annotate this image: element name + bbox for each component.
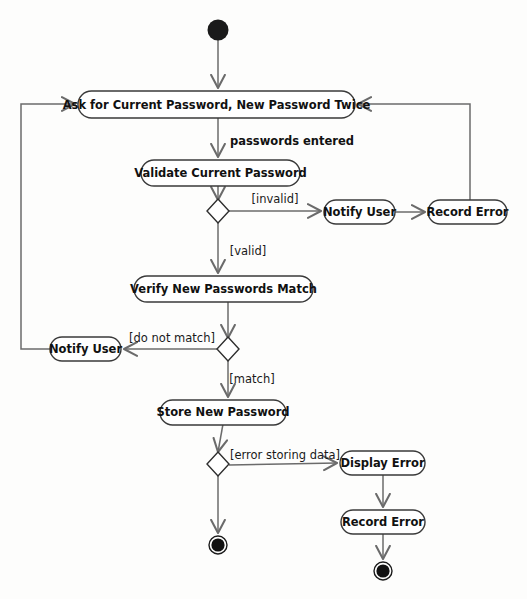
action-record-error-invalid-label: Record Error (426, 205, 508, 219)
action-record-error-store-label: Record Error (342, 515, 424, 529)
action-record-error-store[interactable]: Record Error (341, 510, 425, 534)
action-validate-current-password[interactable]: Validate Current Password (134, 160, 307, 186)
edge-label-invalid: [invalid] (252, 192, 299, 206)
edge-record-error-to-ask-loop (358, 104, 470, 200)
action-ask-for-passwords-label: Ask for Current Password, New Password T… (63, 98, 371, 112)
action-validate-current-password-label: Validate Current Password (134, 166, 307, 180)
diagram-surface: Ask for Current Password, New Password T… (0, 0, 527, 599)
decision-node-password-valid[interactable] (207, 199, 229, 223)
action-verify-new-passwords-match-label: Verify New Passwords Match (130, 282, 317, 296)
action-notify-user-invalid[interactable]: Notify User (323, 200, 396, 224)
action-notify-user-invalid-label: Notify User (323, 205, 396, 219)
edge-store-to-decision3 (218, 424, 223, 452)
edge-decision3-to-display-error (229, 463, 337, 465)
action-display-error-label: Display Error (340, 456, 425, 470)
edge-notify-user-2-to-ask-loop (21, 104, 75, 349)
action-verify-new-passwords-match[interactable]: Verify New Passwords Match (130, 276, 317, 302)
final-node-success[interactable] (209, 536, 227, 554)
initial-node[interactable] (208, 20, 229, 41)
edge-label-error-storing-data: [error storing data] (230, 448, 340, 462)
activity-diagram-canvas: Ask for Current Password, New Password T… (0, 0, 527, 599)
edge-label-valid: [valid] (230, 244, 267, 258)
final-node-error[interactable] (374, 562, 392, 580)
action-record-error-invalid[interactable]: Record Error (426, 200, 508, 224)
action-ask-for-passwords[interactable]: Ask for Current Password, New Password T… (63, 91, 371, 118)
edge-label-passwords-entered: passwords entered (230, 134, 354, 148)
edge-label-match: [match] (229, 372, 274, 386)
action-store-new-password-label: Store New Password (156, 405, 289, 419)
action-display-error[interactable]: Display Error (340, 451, 425, 475)
decision-node-passwords-match[interactable] (217, 337, 239, 361)
decision-node-store-result[interactable] (207, 452, 229, 476)
edge-label-do-not-match: [do not match] (129, 331, 215, 345)
action-notify-user-mismatch[interactable]: Notify User (49, 337, 122, 361)
action-notify-user-mismatch-label: Notify User (49, 342, 122, 356)
action-store-new-password[interactable]: Store New Password (156, 400, 289, 425)
